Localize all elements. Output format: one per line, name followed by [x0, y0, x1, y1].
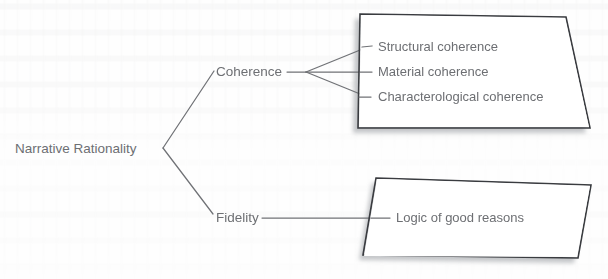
leaf-label-material-coherence: Material coherence	[378, 65, 489, 78]
branch-label-fidelity: Fidelity	[216, 211, 259, 225]
branch-label-coherence: Coherence	[216, 65, 282, 79]
leaf-label-logic-of-good-reasons: Logic of good reasons	[396, 211, 524, 224]
leaf-label-characterological-coherence: Characterological coherence	[378, 90, 543, 103]
diagram-canvas: Narrative Rationality Coherence Fidelity…	[0, 0, 608, 279]
diagram-vector-layer	[0, 0, 608, 279]
root-label-narrative-rationality: Narrative Rationality	[15, 142, 137, 156]
leaf-label-structural-coherence: Structural coherence	[378, 40, 498, 53]
root-to-coherence-line	[163, 71, 214, 148]
root-to-fidelity-line	[163, 148, 213, 214]
